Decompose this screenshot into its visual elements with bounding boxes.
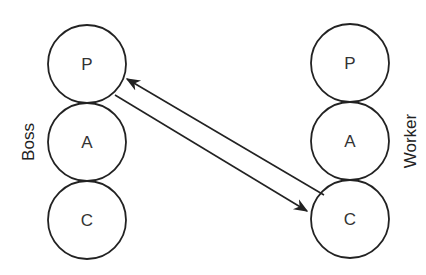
worker-to-boss-arrow: [127, 79, 324, 195]
boss-to-worker-arrow: [115, 95, 307, 211]
worker-label: Worker: [401, 113, 420, 168]
worker-parent-label: P: [344, 54, 355, 73]
boss-column: P A C Boss: [19, 25, 127, 259]
ego-state-diagram: P A C Boss P A C Worker: [0, 0, 426, 275]
worker-adult-state: A: [311, 102, 389, 180]
boss-label: Boss: [19, 123, 38, 161]
worker-column: P A C Worker: [311, 24, 420, 258]
boss-child-label: C: [81, 211, 93, 230]
worker-adult-label: A: [344, 132, 356, 151]
boss-adult-label: A: [81, 133, 93, 152]
transaction-arrows: [115, 79, 324, 211]
boss-parent-label: P: [81, 55, 92, 74]
worker-child-label: C: [344, 210, 356, 229]
boss-child-state: C: [48, 181, 126, 259]
worker-parent-state: P: [311, 24, 389, 102]
worker-child-state: C: [311, 180, 389, 258]
boss-parent-state: P: [48, 25, 126, 103]
boss-adult-state: A: [48, 103, 126, 181]
